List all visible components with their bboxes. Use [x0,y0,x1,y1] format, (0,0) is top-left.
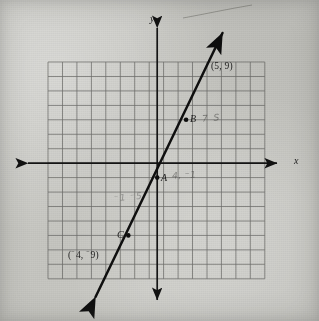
point-label-b: B [190,113,196,124]
graph-svg [0,0,319,321]
axis-x-label: x [294,155,298,166]
axis-y-label: y [150,13,154,24]
graph-line [96,33,223,297]
coord-bottom-y: 9) [90,250,98,260]
point-dot-b [184,118,189,123]
coordinate-label-bottom: (⁻4, ⁻9) [68,248,99,260]
point-dot-c [126,233,131,238]
figure-canvas: x y (5, 9) (⁻4, ⁻9) A B C 7 S 4, ⁻1 ⁻1 ⁻… [0,0,319,321]
point-dot-a [155,175,160,180]
coordinate-label-top: (5, 9) [211,61,233,71]
coord-bottom-x: 4, [76,250,86,260]
stray-pencil-mark [183,5,252,18]
point-label-c: C [117,229,124,240]
point-label-a: A [161,172,167,183]
handwritten-note-b: 7 S [202,112,221,123]
handwritten-note-a: 4, ⁻1 [172,169,197,180]
